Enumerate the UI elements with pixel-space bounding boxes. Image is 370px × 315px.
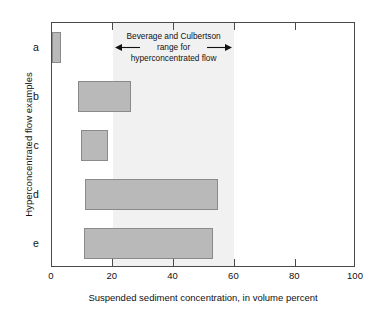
category-label-c: c — [28, 139, 44, 151]
x-tick-label: 80 — [274, 270, 314, 281]
bar-c — [81, 130, 108, 161]
chart-figure: Hyperconcentrated flow examples Suspende… — [0, 0, 370, 315]
category-label-e: e — [28, 237, 44, 249]
x-axis-tick — [173, 259, 174, 266]
bar-b — [78, 81, 131, 112]
bar-a — [52, 32, 61, 63]
bar-e — [84, 228, 213, 259]
x-tick-label: 20 — [92, 270, 132, 281]
right-arrow-icon — [207, 43, 232, 52]
x-axis-tick — [234, 259, 235, 266]
category-label-a: a — [28, 41, 44, 53]
x-tick-label: 40 — [153, 270, 193, 281]
x-axis-tick-top — [173, 23, 174, 30]
x-axis-tick — [112, 259, 113, 266]
x-tick-label: 0 — [31, 270, 71, 281]
x-axis-tick-top — [112, 23, 113, 30]
x-axis-tick-top — [234, 23, 235, 30]
category-label-b: b — [28, 90, 44, 102]
x-axis-tick — [295, 259, 296, 266]
x-axis-tick-top — [295, 23, 296, 30]
category-label-d: d — [28, 188, 44, 200]
left-arrow-icon — [115, 43, 140, 52]
plot-area: Beverage and Culbertson range for hyperc… — [51, 22, 355, 267]
bar-d — [85, 179, 217, 210]
x-axis-label: Suspended sediment concentration, in vol… — [51, 292, 355, 303]
x-tick-label: 60 — [213, 270, 253, 281]
x-tick-label: 100 — [335, 270, 370, 281]
